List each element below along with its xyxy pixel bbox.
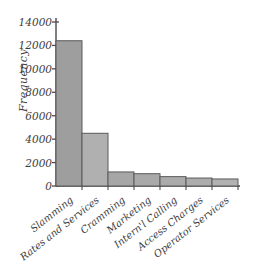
bar [108, 172, 134, 186]
bar [134, 174, 160, 186]
bar [56, 41, 82, 186]
bar-chart: Frequency 020004000600080001000012000140… [0, 0, 260, 273]
bar [186, 178, 212, 186]
bar [212, 179, 238, 186]
bar [160, 177, 186, 186]
bar [82, 133, 108, 186]
plot-area [0, 0, 260, 273]
bars [56, 41, 238, 186]
